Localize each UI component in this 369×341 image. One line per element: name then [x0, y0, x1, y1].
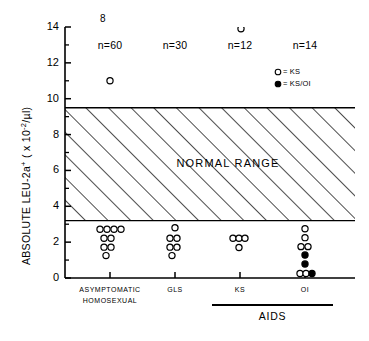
y-tick-label: 2	[37, 236, 59, 247]
data-point-open	[298, 244, 304, 250]
x-tick-label-line2: HOMOSEXUAL	[60, 297, 160, 304]
legend-label: = KS/OI	[283, 80, 311, 88]
data-point-open	[103, 252, 109, 258]
legend-marker-filled-circle	[275, 81, 281, 87]
data-point-open	[167, 235, 173, 241]
data-point-open	[167, 244, 173, 250]
data-point-open	[174, 235, 180, 241]
x-tick-label-oi: OI	[255, 286, 355, 293]
sample-size-asymptomatic-homosexual: n=60	[80, 40, 140, 51]
data-point-open	[108, 235, 114, 241]
y-axis-label: ABSOLUTE LEU-2a+ ( x 10-2/µl)	[20, 107, 32, 265]
data-point-open	[169, 252, 175, 258]
legend-marker-open-circle	[275, 69, 281, 75]
data-point-open	[303, 270, 309, 276]
data-point-open	[118, 226, 124, 232]
y-tick-label: 6	[37, 164, 59, 175]
x-tick-label-line1: OI	[255, 286, 355, 293]
data-point-open	[108, 244, 114, 250]
y-tick-label: 8	[37, 129, 59, 140]
y-tick-label: 10	[37, 93, 59, 104]
stray-mark-8: 8	[100, 14, 106, 24]
figure-container: ABSOLUTE LEU-2a+ ( x 10-2/µl) 0246810121…	[0, 0, 369, 341]
data-point-open	[238, 26, 244, 32]
data-point-open	[97, 226, 103, 232]
data-point-open	[302, 226, 308, 232]
data-point-open	[101, 235, 107, 241]
data-point-open	[297, 270, 303, 276]
y-tick-label: 4	[37, 200, 59, 211]
data-point-open	[111, 226, 117, 232]
data-point-open	[230, 235, 236, 241]
sample-size-oi: n=14	[275, 40, 335, 51]
y-tick-label: 12	[37, 57, 59, 68]
data-point-open	[172, 225, 178, 231]
normal-range-label: NORMAL RANGE	[176, 158, 279, 169]
sample-size-ks: n=12	[210, 40, 270, 51]
sample-size-gls: n=30	[145, 40, 205, 51]
data-point-filled	[302, 261, 308, 267]
data-point-open	[302, 235, 308, 241]
y-tick-label: 0	[37, 272, 59, 283]
aids-group-label: AIDS	[259, 311, 287, 322]
data-point-open	[236, 235, 242, 241]
legend-markers	[275, 69, 281, 87]
data-point-filled	[309, 270, 315, 276]
data-point-open	[305, 244, 311, 250]
data-point-open	[107, 78, 113, 84]
x-axis-ticks	[110, 272, 305, 278]
legend-label: = KS	[283, 68, 300, 76]
data-point-open	[101, 244, 107, 250]
data-point-open	[174, 244, 180, 250]
data-point-filled	[302, 252, 308, 258]
data-point-open	[104, 226, 110, 232]
y-tick-label: 14	[37, 21, 59, 32]
data-point-open	[236, 244, 242, 250]
data-point-open	[242, 235, 248, 241]
